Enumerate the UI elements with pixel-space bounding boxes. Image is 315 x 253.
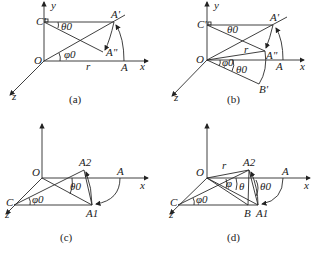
label-c: C [6,196,14,208]
panel-c: O A2 A x C z A1 θ0 φ0 (c) [4,124,148,244]
rotation-diagram: y C' A' A" O r A x z θ0 φ0 (a) y C' A' A… [0,0,315,253]
label-origin: O [32,166,40,178]
label-a-prime: A' [110,8,121,20]
label-r: r [86,60,91,72]
label-c-prime: C' [197,18,207,30]
label-phi0: φ0 [64,48,76,60]
label-b: B [244,207,251,219]
label-a1: A1 [255,207,268,219]
label-phi0: φ0 [32,193,44,205]
panel-a: y C' A' A" O r A x z θ0 φ0 (a) [10,0,148,106]
label-a2: A2 [78,156,92,168]
label-z: z [4,208,10,220]
label-x: x [139,179,145,191]
label-a-prime: A' [269,11,280,23]
label-theta0-bottom: θ0 [236,63,247,75]
label-a1: A1 [85,207,98,219]
label-z: z [11,90,17,102]
label-phi0: φ0 [196,193,208,205]
label-c-prime: C' [36,15,46,27]
label-a-double-prime: A" [105,46,118,58]
label-origin: O [196,53,204,65]
label-a2: A2 [242,156,256,168]
label-theta: θ [239,180,245,192]
caption-b: (b) [227,93,240,106]
label-theta0: θ0 [260,180,271,192]
label-y: y [50,0,56,11]
label-theta0-top: θ0 [227,23,238,35]
label-r: r [244,43,249,55]
label-a: A [120,61,128,73]
label-x: x [303,179,309,191]
label-b-prime: B' [259,83,269,95]
label-theta0: θ0 [61,20,72,32]
label-a: A [116,165,124,177]
label-x: x [139,60,145,72]
label-z: z [173,91,179,103]
label-origin: O [34,54,42,66]
label-a: A [281,165,289,177]
label-c: C [170,196,178,208]
label-r: r [222,159,227,171]
caption-d: (d) [227,231,240,244]
label-x: x [299,60,305,72]
label-phi: φ [226,177,232,189]
label-a: A [275,60,283,72]
label-theta0: θ0 [70,180,81,192]
label-origin: O [196,166,204,178]
panel-d: O r A2 A x C z B A1 φ θ θ0 φ0 (d) [168,124,310,244]
caption-a: (a) [69,93,82,106]
panel-b: y C' A' A" O r A x z B' θ0 φ0 θ0 (b) [172,0,305,106]
caption-c: (c) [60,231,73,244]
label-phi0: φ0 [222,56,234,68]
label-z: z [168,208,174,220]
label-y: y [213,0,219,11]
